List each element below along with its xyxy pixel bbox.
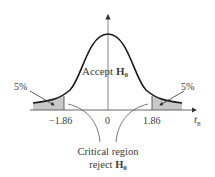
axis-label: t8	[194, 113, 201, 128]
tick-left: −1.86	[49, 115, 72, 126]
tick-center: 0	[105, 115, 110, 126]
t-distribution-diagram: Accept H0 5% 5% −1.86 0 1.86 t8 Critical…	[0, 0, 215, 177]
accept-label: Accept H0	[82, 65, 128, 79]
critical-region-label: Critical region	[78, 146, 140, 157]
tick-right: 1.86	[143, 115, 161, 126]
right-tail-percent: 5%	[181, 81, 194, 92]
left-tail-percent: 5%	[14, 81, 27, 92]
reject-h0-label: reject H0	[89, 159, 127, 172]
